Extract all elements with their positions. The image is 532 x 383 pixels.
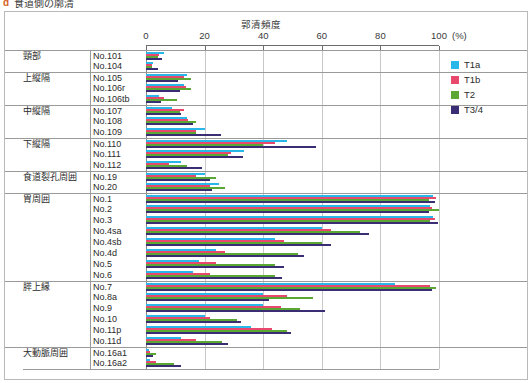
chart-row: 上縦隔No.105: [5, 72, 527, 83]
x-axis-line: [146, 45, 439, 46]
bar-T3-4: [146, 80, 178, 82]
bar-T3-4: [146, 146, 316, 148]
chart-figure: 郭清頻度 (%) 020406080100 頸部No.101No.104上縦隔N…: [4, 11, 528, 380]
bar-T3-4: [146, 321, 241, 323]
legend-item-T3-4[interactable]: T3/4: [451, 105, 483, 114]
node-label: No.4sb: [93, 237, 122, 248]
x-tick-label-80: 80: [375, 30, 386, 41]
legend-swatch-icon: [451, 91, 459, 99]
bar-T3-4: [146, 167, 202, 169]
chart-rows: 頸部No.101No.104上縦隔No.105No.106rNo.106tb中縦…: [5, 50, 527, 369]
chart-row: No.2: [5, 204, 527, 215]
x-axis-unit-label: (%): [452, 30, 467, 41]
node-label: No.4sa: [93, 226, 122, 237]
bar-T3-4: [146, 222, 438, 224]
x-tick-label-60: 60: [317, 30, 328, 41]
chart-row: No.106tb: [5, 94, 527, 105]
chart-row: No.104: [5, 61, 527, 72]
bar-group: [146, 116, 527, 127]
node-label: No.2: [93, 204, 112, 215]
bar-T3-4: [146, 365, 181, 367]
node-label: No.4d: [93, 248, 117, 259]
node-label: No.104: [93, 61, 122, 72]
plot-bottom-border: [23, 369, 439, 370]
chart-row: No.8a: [5, 292, 527, 303]
node-label: No.11p: [93, 325, 121, 336]
bar-T3-4: [146, 101, 161, 103]
bar-T3-4: [146, 310, 325, 312]
bar-group: [146, 237, 527, 248]
x-tick-label-20: 20: [199, 30, 210, 41]
bar-group: [146, 336, 527, 347]
chart-row: No.111: [5, 149, 527, 160]
node-label: No.16a2: [93, 358, 127, 369]
bar-group: [146, 358, 527, 369]
chart-row: No.4sb: [5, 237, 527, 248]
node-label: No.112: [93, 160, 121, 171]
bar-group: [146, 292, 527, 303]
heading-bullet-marker: d: [0, 0, 9, 8]
chart-row: No.4sa: [5, 226, 527, 237]
legend-item-T2[interactable]: T2: [451, 90, 483, 99]
chart-row: No.10: [5, 314, 527, 325]
bar-group: [146, 182, 527, 193]
chart-row: No.108: [5, 116, 527, 127]
bar-group: [146, 149, 527, 160]
bar-T3-4: [146, 68, 158, 70]
legend-label: T2: [464, 90, 475, 99]
node-label: No.3: [93, 215, 112, 226]
node-label: No.10: [93, 314, 117, 325]
legend-item-T1a[interactable]: T1a: [451, 60, 483, 69]
chart-row: No.106r: [5, 83, 527, 94]
bar-T3-4: [146, 355, 153, 357]
bar-T3-4: [146, 211, 429, 213]
chart-row: 頸部No.101: [5, 50, 527, 61]
bar-group: [146, 127, 527, 138]
chart-row: 中縦隔No.107: [5, 105, 527, 116]
bar-group: [146, 270, 527, 281]
legend-item-T1b[interactable]: T1b: [451, 75, 483, 84]
chart-row: No.20: [5, 182, 527, 193]
bar-T3-4: [146, 233, 369, 235]
node-label: No.6: [93, 270, 112, 281]
x-tick-label-40: 40: [258, 30, 269, 41]
chart-row: 胃周囲No.1: [5, 193, 527, 204]
chart-row: No.112: [5, 160, 527, 171]
bar-T3-4: [146, 255, 304, 257]
legend-label: T3/4: [464, 105, 483, 114]
chart-row: No.5: [5, 259, 527, 270]
bar-T3-4: [146, 179, 210, 181]
chart-row: No.109: [5, 127, 527, 138]
bar-group: [146, 303, 527, 314]
bar-T3-4: [146, 343, 228, 345]
node-label: No.11d: [93, 336, 121, 347]
bar-T3-4: [146, 299, 269, 301]
bar-T3-4: [146, 266, 284, 268]
bar-group: [146, 259, 527, 270]
chart-row: 下縦隔No.110: [5, 138, 527, 149]
node-label: No.108: [93, 116, 122, 127]
bar-T3-4: [146, 90, 180, 92]
chart-row: No.9: [5, 303, 527, 314]
bar-T3-4: [146, 201, 435, 203]
chart-legend: T1aT1bT2T3/4: [451, 60, 483, 114]
node-label: No.106r: [93, 83, 125, 94]
node-label: No.20: [93, 182, 117, 193]
bar-T3-4: [146, 277, 282, 279]
bar-T3-4: [146, 134, 221, 136]
chart-row: No.16a2: [5, 358, 527, 369]
chart-row: 食道裂孔周囲No.19: [5, 171, 527, 182]
bar-T3-4: [146, 189, 212, 191]
node-label: No.9: [93, 303, 112, 314]
legend-swatch-icon: [451, 106, 459, 114]
bar-T3-4: [146, 332, 291, 334]
chart-row: No.11p: [5, 325, 527, 336]
legend-label: T1a: [464, 60, 480, 69]
node-label: No.111: [93, 149, 121, 160]
x-tick-label-100: 100: [431, 30, 447, 41]
node-label: No.8a: [93, 292, 117, 303]
chart-row: No.4d: [5, 248, 527, 259]
page-heading: d 食道側の廓清: [0, 0, 74, 9]
node-label: No.5: [93, 259, 112, 270]
bar-group: [146, 160, 527, 171]
